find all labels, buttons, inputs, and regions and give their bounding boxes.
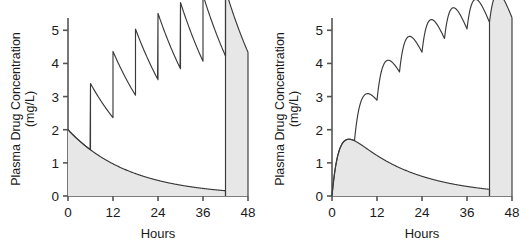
y-axis-title-line1: Plasma Drug Concentration (273, 32, 287, 186)
x-tick-label: 24 (414, 205, 430, 220)
x-tick-label: 24 (150, 205, 166, 220)
y-tick-label: 2 (51, 123, 59, 138)
y-tick-label: 5 (51, 23, 59, 38)
y-tick-label: 1 (315, 156, 323, 171)
y-tick-label: 0 (51, 189, 59, 204)
y-tick-label: 3 (315, 90, 323, 105)
y-axis-title-line2: (mg/L) (23, 91, 37, 127)
chart-panel-right: 012345012243648HoursPlasma Drug Concentr… (264, 0, 527, 245)
x-tick-label: 36 (459, 205, 474, 220)
y-tick-label: 1 (51, 156, 59, 171)
oral-dosing-chart: 012345012243648HoursPlasma Drug Concentr… (264, 0, 527, 245)
y-tick-label: 0 (315, 189, 323, 204)
final-dose-shaded-area (489, 0, 512, 196)
chart-panel-left: 012345012243648HoursPlasma Drug Concentr… (0, 0, 264, 245)
y-tick-label: 5 (315, 23, 323, 38)
x-tick-label: 48 (504, 205, 519, 220)
y-tick-label: 4 (51, 56, 59, 71)
y-tick-label: 3 (51, 90, 59, 105)
x-axis-title: Hours (141, 226, 176, 241)
x-tick-label: 48 (240, 205, 255, 220)
x-tick-label: 0 (64, 205, 72, 220)
x-axis-title: Hours (404, 226, 439, 241)
single-dose-shaded-area (68, 130, 226, 196)
final-dose-shaded-area (226, 0, 249, 196)
y-tick-label: 4 (315, 56, 323, 71)
x-tick-label: 12 (369, 205, 384, 220)
y-tick-label: 2 (315, 123, 323, 138)
x-tick-label: 0 (328, 205, 336, 220)
y-axis-title-line2: (mg/L) (287, 91, 301, 127)
multiple-dose-curve (68, 0, 248, 150)
pharmacokinetics-figure: 012345012243648HoursPlasma Drug Concentr… (0, 0, 527, 245)
x-tick-label: 36 (195, 205, 210, 220)
y-axis-title-line1: Plasma Drug Concentration (9, 32, 23, 186)
x-tick-label: 12 (105, 205, 120, 220)
iv-bolus-chart: 012345012243648HoursPlasma Drug Concentr… (0, 0, 264, 245)
single-dose-shaded-area (332, 139, 490, 196)
